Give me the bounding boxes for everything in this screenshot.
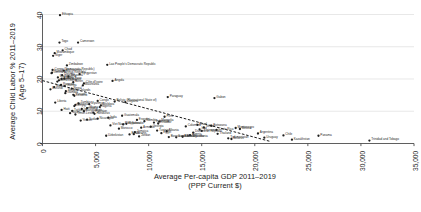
point-label: Cameroon bbox=[80, 40, 94, 43]
point-label: Brazil bbox=[199, 123, 207, 126]
point-label: Eswatini bbox=[139, 118, 150, 121]
point-label: South Africa bbox=[178, 135, 194, 138]
x-tick-label: 35,000 bbox=[412, 151, 419, 171]
y-tick-label: 10 bbox=[36, 108, 43, 115]
point-label: Lao People's Democratic Republic bbox=[109, 63, 156, 66]
point-label: Congo (Democratic Republic) bbox=[54, 68, 94, 71]
point-label: Vanuatu bbox=[75, 93, 86, 96]
point-label: Moldova bbox=[103, 103, 115, 106]
point-label: Belize bbox=[131, 132, 139, 135]
point-label: Nauru bbox=[72, 111, 80, 114]
point-label: Kazakhstan bbox=[294, 138, 310, 141]
chart-figure: Average Per-capita GDP 2011–2019 (PPP Cu… bbox=[0, 0, 421, 212]
point-label: Mexico bbox=[242, 127, 252, 130]
point-label: Ethiopia bbox=[62, 13, 73, 16]
y-tick-label: 20 bbox=[36, 76, 43, 83]
point-label: Georgia bbox=[153, 125, 164, 128]
point-label: Niger bbox=[55, 54, 62, 57]
x-tick-label: 5,000 bbox=[93, 151, 100, 168]
point-label: Guyana bbox=[127, 100, 138, 103]
point-label: Liberia bbox=[57, 100, 66, 103]
x-axis-title: Average Per-capita GDP 2011–2019 (PPP Cu… bbox=[70, 172, 360, 191]
point-label: Uruguay bbox=[266, 136, 278, 139]
point-label: Jordan bbox=[141, 134, 150, 137]
point-label: Central African Republic bbox=[53, 71, 86, 74]
x-tick-label: 15,000 bbox=[199, 151, 206, 171]
x-tick-label: 20,000 bbox=[252, 151, 259, 171]
y-axis-title: Average Child Labor % 2011–2019 (Age 5–1… bbox=[8, 6, 27, 156]
x-tick-label: 30,000 bbox=[359, 151, 366, 171]
point-label: Burundi bbox=[52, 87, 63, 90]
point-label: Solomon Islands bbox=[68, 89, 91, 92]
point-label: Guatemala bbox=[124, 114, 139, 117]
point-label: Uzbekistan bbox=[108, 134, 123, 137]
y-tick-label: 0 bbox=[36, 142, 43, 146]
point-label: Panama bbox=[320, 134, 331, 137]
point-label: El Salvador bbox=[128, 122, 144, 125]
x-tick-label: 25,000 bbox=[305, 151, 312, 171]
point-label: Haiti bbox=[64, 108, 70, 111]
point-label: Chile bbox=[285, 133, 292, 136]
point-label: Honduras bbox=[96, 112, 109, 115]
x-tick-label: 0 bbox=[40, 149, 47, 153]
point-label: Mauritania bbox=[85, 83, 99, 86]
x-tick-label: 10,000 bbox=[146, 151, 153, 171]
point-label: Trinidad and Tobago bbox=[371, 138, 399, 141]
point-label: Belarus bbox=[233, 137, 243, 140]
point-label: Togo bbox=[61, 40, 68, 43]
point-label: Botswana bbox=[213, 124, 226, 127]
point-label: Gabon bbox=[216, 96, 225, 99]
point-label: Suriname bbox=[204, 129, 217, 132]
y-tick-label: 40 bbox=[36, 11, 43, 18]
point-label: Nicaragua bbox=[100, 117, 114, 120]
y-tick-label: 30 bbox=[36, 43, 43, 50]
point-label: Morocco bbox=[121, 127, 133, 130]
point-label: Paraguay bbox=[170, 95, 183, 98]
point-label: Yemen bbox=[83, 119, 92, 122]
point-label: Angola bbox=[114, 79, 124, 82]
